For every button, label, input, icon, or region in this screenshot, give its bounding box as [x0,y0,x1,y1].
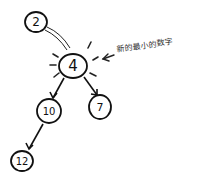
svg-text:7: 7 [97,101,104,114]
svg-text:2: 2 [32,15,40,29]
svg-text:4: 4 [68,57,78,75]
svg-text:10: 10 [43,106,56,117]
node-7: 7 [89,95,111,119]
annotation-arrow-icon [103,54,114,61]
node-2: 2 [25,12,47,32]
edge-10-12 [26,124,43,149]
node-4: 4 [59,54,87,78]
edge-4-10 [50,78,64,98]
edge-4-7 [84,77,97,95]
edge-2-4 [45,27,70,50]
node-10: 10 [37,99,61,123]
svg-text:12: 12 [16,156,29,167]
node-12: 12 [11,151,33,171]
tree-diagram: 2 4 10 7 12 [0,0,197,184]
